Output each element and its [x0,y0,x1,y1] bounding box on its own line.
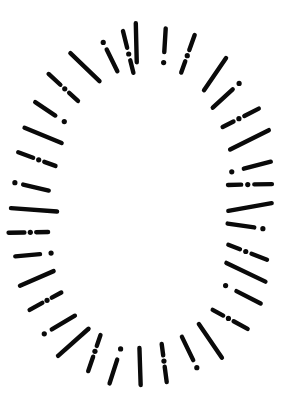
spoke-mark [12,180,48,191]
spoke-dash [18,152,33,157]
spoke-dash [130,60,133,73]
spoke-dash [123,31,127,48]
spoke-dot [48,251,53,256]
spoke-mark [15,251,53,257]
spoke-mark [49,74,78,101]
spoke-dot [260,226,265,231]
spoke-mark [35,102,67,124]
spoke-dash [234,321,248,329]
spoke-dash [236,291,260,303]
spoke-dash [11,208,57,211]
spoke-dash [165,367,167,382]
spoke-dot [126,51,131,56]
spoke-dash [164,28,165,52]
spoke-dot [62,119,67,124]
spoke-dot [229,169,234,174]
spoke-mark [136,23,137,62]
spoke-dash [182,337,193,360]
spoke-dash [97,335,101,346]
spoke-mark [161,344,166,382]
spoke-dash [181,61,185,72]
drawing-page [0,0,284,415]
spoke-mark [213,310,248,329]
spoke-dot [226,316,231,321]
spoke-mark [213,81,242,108]
spoke-mark [223,109,259,127]
spoke-dash [189,35,194,50]
spoke-mark [110,346,124,383]
spoke-dash [244,109,258,116]
oval-sunburst-drawing [0,0,284,415]
spoke-mark [161,28,166,65]
spoke-dash [15,254,40,256]
spoke-mark [223,283,261,304]
spoke-dash [199,324,222,358]
spoke-dash [110,360,118,384]
spoke-dash [136,23,137,62]
spoke-mark [18,152,55,166]
spoke-dash [20,271,54,286]
spoke-dot [161,60,166,65]
spoke-dot [101,40,106,45]
spoke-dash [69,93,78,101]
spoke-dot [245,182,250,187]
spoke-dash [230,130,269,149]
spoke-dash [213,89,233,107]
spoke-dash [30,303,43,310]
spoke-dot [92,349,97,354]
spoke-dash [244,162,271,169]
spoke-dash [107,49,118,71]
spoke-mark [30,292,62,309]
spoke-mark [228,182,272,187]
spoke-mark [20,271,54,286]
spoke-dash [88,357,93,371]
spoke-dash [228,245,240,250]
spoke-dot [12,180,17,185]
spoke-dash [44,162,55,166]
spoke-mark [228,224,266,232]
spoke-mark [199,324,222,358]
spoke-mark [228,203,271,211]
spoke-mark [11,208,57,211]
spoke-dash [223,121,234,127]
spoke-mark [181,35,194,73]
spoke-dot [185,53,190,58]
spoke-dash [35,102,55,115]
spoke-mark [139,348,140,385]
spoke-dash [58,329,88,356]
spoke-dash [213,310,223,316]
spoke-mark [229,162,271,175]
spoke-mark [226,263,265,282]
spoke-dash [228,224,255,228]
spoke-dash [70,53,99,81]
spoke-dot [28,230,33,235]
spoke-dash [226,263,265,282]
spoke-dot [194,365,199,370]
spoke-dash [162,344,164,355]
spoke-mark [9,230,48,235]
spoke-dot [36,157,41,162]
spoke-dash [52,316,75,330]
spoke-mark [42,316,75,337]
spoke-mark [70,53,99,81]
spoke-mark [228,245,267,260]
spoke-mark [182,337,199,370]
spoke-dash [23,185,49,191]
spoke-mark [58,329,88,356]
spoke-dot [44,298,49,303]
spoke-dash [49,74,61,85]
spoke-mark [204,58,226,90]
spoke-dash [52,292,61,297]
spoke-dash [252,254,267,260]
spoke-dash [25,128,62,143]
spoke-mark [88,335,100,371]
spoke-mark [230,130,269,149]
spoke-dash [204,58,226,90]
spoke-mark [25,128,62,143]
spoke-dot [243,249,248,254]
spoke-dot [223,283,228,288]
spoke-mark [101,40,118,71]
spoke-dot [118,346,123,351]
spoke-dot [42,331,47,336]
spoke-dot [62,86,67,91]
